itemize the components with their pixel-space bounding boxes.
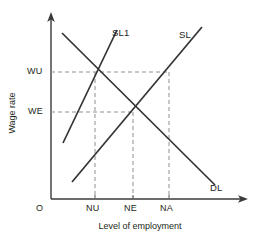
curve-label-dl: DL	[210, 183, 223, 193]
curve-sl1	[63, 30, 117, 143]
x-tick-label-ne: NE	[124, 203, 137, 213]
y-tick-label-wu: WU	[27, 66, 42, 76]
labour-market-diagram: WU WE O NU NE NA SL1 SL DL Wage rate Lev…	[0, 0, 279, 242]
curve-dl	[62, 33, 215, 185]
x-tick-label-nu: NU	[86, 203, 99, 213]
x-tick-label-na: NA	[160, 203, 173, 213]
y-axis-title: Wage rate	[7, 81, 17, 145]
curve-label-sl1: SL1	[112, 28, 130, 38]
x-axis-title: Level of employment	[64, 221, 216, 231]
curve-sl	[72, 27, 202, 182]
curve-label-sl: SL	[179, 30, 191, 40]
y-tick-label-we: WE	[28, 106, 43, 116]
origin-label: O	[36, 203, 43, 213]
